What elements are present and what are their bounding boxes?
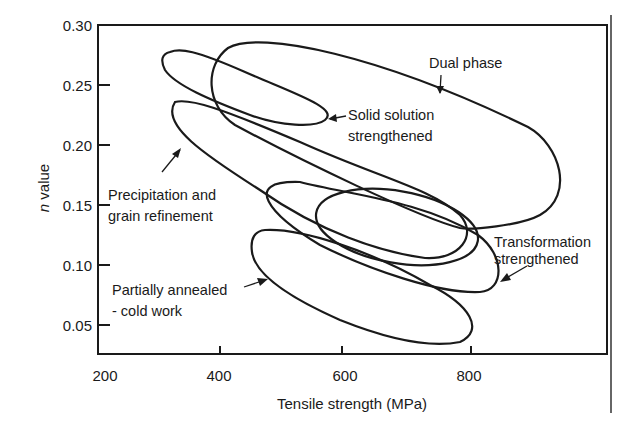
annotation-precipitation: Precipitation and [108,187,216,203]
y-axis: 0.30 0.25 0.20 0.15 0.10 0.05 [63,17,110,334]
y-tick-label: 0.10 [63,257,92,274]
annotations: Dual phase Solid solution strengthened P… [108,55,591,319]
annotation-solid-solution: Solid solution [348,107,434,123]
y-tick-label: 0.05 [63,317,92,334]
region-transformation [267,182,499,292]
x-tick-label: 400 [206,367,231,384]
region-solid-solution [162,50,327,125]
annotation-solid-solution: strengthened [348,128,433,144]
annotation-dual-phase: Dual phase [429,55,502,71]
x-tick-label: 200 [92,367,117,384]
region-precipitation [172,101,467,258]
x-tick-label: 800 [456,367,481,384]
y-tick-label: 0.20 [63,137,92,154]
x-tick-label: 600 [332,367,357,384]
regions [162,42,560,344]
annotation-transformation: Transformation [494,234,591,250]
x-axis-title: Tensile strength (MPa) [277,395,427,412]
x-axis: 200 400 600 800 [92,346,481,384]
y-tick-label: 0.15 [63,197,92,214]
y-tick-label: 0.30 [63,17,92,34]
y-axis-title: n value [35,164,52,212]
annotation-partially-annealed: - cold work [112,303,183,319]
annotation-partially-annealed: Partially annealed [112,282,227,298]
annotation-transformation: strengthened [494,251,579,267]
annotation-precipitation: grain refinement [108,208,213,224]
chart: 0.30 0.25 0.20 0.15 0.10 0.05 200 400 60… [0,0,640,436]
y-tick-label: 0.25 [63,77,92,94]
